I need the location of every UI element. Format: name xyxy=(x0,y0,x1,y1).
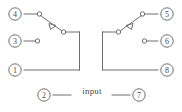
pin-1[interactable]: 1 xyxy=(9,64,21,76)
pin-4-label: 4 xyxy=(13,10,17,19)
pin-3-label: 3 xyxy=(13,37,17,46)
pin-4[interactable]: 4 xyxy=(9,8,21,20)
arrowhead-right-icon xyxy=(126,24,133,30)
pin-5[interactable]: 5 xyxy=(161,8,173,20)
pin-3[interactable]: 3 xyxy=(9,35,21,47)
pin-8-label: 8 xyxy=(165,66,169,75)
pin-7-label: 7 xyxy=(137,91,141,100)
pin-1-label: 1 xyxy=(13,66,17,75)
pin-7[interactable]: 7 xyxy=(133,89,145,101)
pin-8[interactable]: 8 xyxy=(161,64,173,76)
terminal-dot-pin-3 xyxy=(35,39,39,43)
terminal-dot-pin-6 xyxy=(142,39,146,43)
pin-2[interactable]: 2 xyxy=(38,89,50,101)
pin-2-label: 2 xyxy=(42,91,46,100)
relay-contact-diagram: 4 3 1 5 6 8 2 7 inpu xyxy=(0,0,182,112)
pin-6[interactable]: 6 xyxy=(161,35,173,47)
arrowhead-left-icon xyxy=(49,24,56,30)
pin-6-label: 6 xyxy=(165,37,169,46)
pin-5-label: 5 xyxy=(165,10,169,19)
input-label: input xyxy=(72,86,112,96)
